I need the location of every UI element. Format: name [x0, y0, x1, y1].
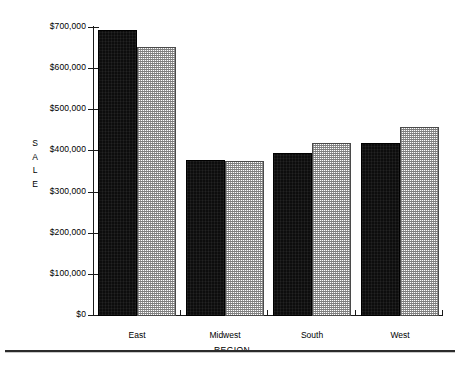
- x-tick-midwest-south: [267, 310, 268, 316]
- y-tick-label-600000: $600,000: [8, 63, 86, 72]
- bar-midwest-series2: [225, 161, 264, 316]
- bar-west-series1: [361, 143, 400, 316]
- y-axis-line: [93, 26, 94, 316]
- x-tick-end: [442, 310, 443, 316]
- bar-west-series2: [400, 127, 439, 316]
- y-tick-label-400000-wrap: $400,000: [0, 145, 86, 155]
- y-tick-label-400000: $400,000: [8, 145, 86, 154]
- y-tick-label-500000: $500,000: [8, 104, 86, 113]
- y-tick-label-200000-wrap: $200,000: [0, 228, 86, 238]
- bar-chart: S A L E $700,000 $600,000 $500,000 $400,…: [0, 0, 464, 370]
- bar-east-series1: [98, 30, 137, 316]
- footer-divider: [5, 350, 455, 352]
- x-tick-south-west: [355, 310, 356, 316]
- x-category-label-east: East: [97, 330, 177, 340]
- bar-east-series2: [137, 47, 176, 316]
- y-tick-label-300000: $300,000: [8, 187, 86, 196]
- bar-south-series1: [273, 153, 312, 316]
- y-tick-label-200000: $200,000: [8, 228, 86, 237]
- x-tick-start: [93, 310, 94, 316]
- y-tick-label-300000-wrap: $300,000: [0, 187, 86, 197]
- x-category-label-south: South: [272, 330, 352, 340]
- y-tick-label-700000: $700,000: [8, 22, 86, 31]
- y-axis-title-letter-l: L: [28, 164, 42, 178]
- y-tick-label-700000-wrap: $700,000: [0, 22, 86, 32]
- x-category-label-west: West: [360, 330, 440, 340]
- x-category-label-midwest: Midwest: [185, 330, 265, 340]
- x-tick-east-midwest: [180, 310, 181, 316]
- y-tick-label-0-wrap: $0: [0, 310, 86, 320]
- y-tick-label-600000-wrap: $600,000: [0, 63, 86, 73]
- y-tick-label-500000-wrap: $500,000: [0, 104, 86, 114]
- bar-midwest-series1: [186, 160, 225, 316]
- y-tick-label-100000: $100,000: [8, 269, 86, 278]
- y-tick-label-100000-wrap: $100,000: [0, 269, 86, 279]
- bar-south-series2: [312, 143, 351, 316]
- y-tick-label-0: $0: [8, 310, 86, 319]
